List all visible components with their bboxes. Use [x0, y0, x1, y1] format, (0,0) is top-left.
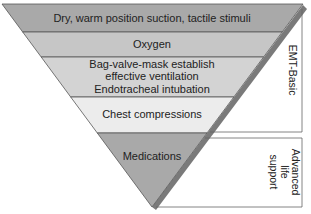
band-3-label-line1: Bag-valve-mask establish	[89, 58, 214, 70]
band-2-label: Oxygen	[133, 38, 171, 50]
band-1-label: Dry, warm position suction, tactile stim…	[53, 12, 250, 24]
band-4-label: Chest compressions	[102, 108, 202, 120]
resuscitation-pyramid-diagram: Dry, warm position suction, tactile stim…	[0, 0, 311, 214]
band-5-label: Medications	[123, 150, 182, 162]
band-3-label-line2: effective ventilation	[105, 70, 198, 82]
advanced-label-line3: support	[268, 154, 280, 189]
band-3-label-line3: Endotracheal intubation	[94, 83, 210, 95]
band-5	[97, 133, 207, 207]
emt-basic-label: EMT-Basic	[287, 45, 299, 96]
